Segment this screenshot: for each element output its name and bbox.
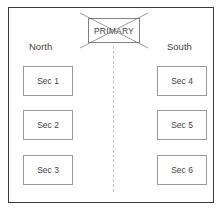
section-box-south-3[interactable]: Sec 6 (157, 155, 207, 185)
section-box-north-2[interactable]: Sec 2 (23, 110, 73, 140)
region-divider-line (113, 46, 114, 192)
primary-node-label: PRIMARY (89, 19, 139, 42)
section-box-south-1[interactable]: Sec 4 (157, 66, 207, 96)
section-box-north-1[interactable]: Sec 1 (23, 66, 73, 96)
primary-node-box[interactable]: PRIMARY (88, 18, 140, 43)
section-box-south-2[interactable]: Sec 5 (157, 110, 207, 140)
diagram-canvas: PRIMARY North South Sec 1 Sec 2 Sec 3 Se… (0, 0, 224, 212)
section-box-north-3[interactable]: Sec 3 (23, 155, 73, 185)
region-label-north: North (29, 41, 52, 52)
region-label-south: South (167, 41, 192, 52)
